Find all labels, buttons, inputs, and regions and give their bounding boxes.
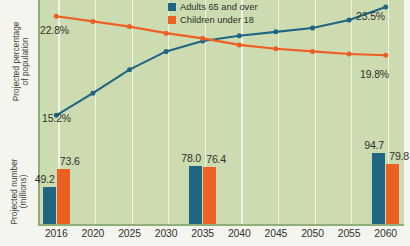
data-point-adults-2020 [90,91,95,96]
bar-label-adults-2035: 78.0 [181,152,201,164]
data-point-adults-2025 [127,67,132,72]
legend-label-children: Children under 18 [180,15,254,25]
x-tick-2035: 2035 [191,228,214,239]
bar-children-2060 [386,164,399,224]
legend-label-adults: Adults 65 and over [180,2,258,12]
x-tick-2016: 2016 [45,228,68,239]
x-tick-2050: 2050 [301,228,324,239]
x-tick-2040: 2040 [228,228,251,239]
data-point-children-2030 [164,31,169,36]
bar-adults-2035 [189,166,202,225]
data-point-children-2040 [237,42,242,47]
legend-swatch-children [168,16,176,24]
line-label-children-2016: 22.8% [40,25,69,36]
bar-children-2016 [57,169,70,224]
data-point-adults-2050 [310,25,315,30]
line-label-adults-2060: 23.5% [356,11,385,22]
data-point-children-2045 [273,46,278,51]
bar-label-children-2060: 79.8 [389,150,409,162]
data-point-children-2016 [54,14,59,19]
x-tick-2060: 2060 [374,228,397,239]
data-point-children-2050 [310,49,315,54]
data-point-adults-2045 [273,29,278,34]
bar-label-children-2035: 76.4 [206,153,226,165]
data-point-children-2025 [127,24,132,29]
x-axis-ticks: 2016202020252030203520402045205020552060 [38,228,404,244]
bar-adults-2016 [43,187,56,224]
data-point-children-2055 [347,52,352,57]
line-label-adults-2016: 15.2% [42,113,71,124]
bar-label-adults-2060: 94.7 [364,139,384,151]
bar-children-2035 [203,167,216,224]
bar-label-children-2016: 73.6 [60,155,80,167]
data-point-adults-2030 [164,49,169,54]
line-label-children-2060: 19.8% [360,69,389,80]
bar-label-adults-2016: 49.2 [35,173,55,185]
legend-item-adults: Adults 65 and over [168,1,258,13]
chart-legend: Adults 65 and over Children under 18 [168,1,258,27]
x-tick-2045: 2045 [265,228,288,239]
data-point-children-2035 [200,36,205,41]
bar-adults-2060 [372,153,385,224]
legend-swatch-adults [168,3,176,11]
x-tick-2020: 2020 [82,228,105,239]
chart-figure: Projected percentage of population Proje… [0,0,410,246]
data-point-adults-2060 [383,5,388,10]
data-point-adults-2055 [347,18,352,23]
data-point-adults-2040 [237,33,242,38]
x-tick-2030: 2030 [155,228,178,239]
data-point-children-2020 [90,19,95,24]
x-tick-2025: 2025 [118,228,141,239]
x-tick-2055: 2055 [338,228,361,239]
data-point-children-2060 [383,53,388,58]
legend-item-children: Children under 18 [168,14,258,26]
